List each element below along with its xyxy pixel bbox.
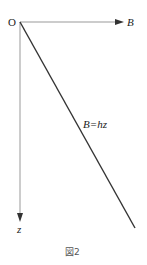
b-equals-hz-line (20, 22, 135, 228)
b-axis-arrowhead-icon (115, 19, 124, 25)
z-axis-arrowhead-icon (17, 213, 23, 222)
z-axis-label: z (16, 223, 22, 235)
line-equation-label: B=hz (83, 118, 108, 130)
diagram-canvas: O B z B=hz 図2 (0, 0, 147, 265)
figure-caption: 図2 (65, 247, 80, 257)
origin-label: O (8, 16, 16, 28)
b-axis-label: B (127, 16, 134, 28)
